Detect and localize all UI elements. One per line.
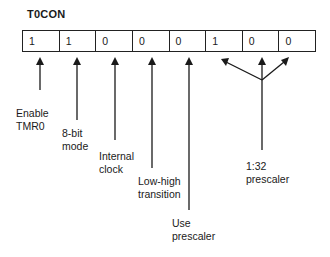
arrow-lines (0, 0, 330, 257)
label-use-prescaler: Use prescaler (172, 217, 215, 243)
label-internal-clock: Internal clock (99, 150, 134, 176)
label-enable-tmr0: Enable TMR0 (16, 107, 49, 133)
label-low-high-transition: Low-high transition (138, 175, 181, 201)
label-8bit-mode: 8-bit mode (62, 127, 88, 153)
label-prescaler-ratio: 1:32 prescaler (246, 160, 289, 186)
